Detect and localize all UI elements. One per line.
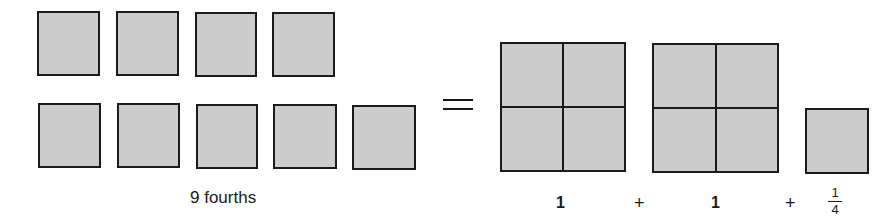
fourth-square bbox=[352, 105, 416, 170]
equals-sign bbox=[443, 99, 473, 111]
fourth-square bbox=[37, 11, 100, 76]
plus-sign-1: + bbox=[634, 193, 645, 214]
fourth-square bbox=[38, 103, 101, 168]
divider-horizontal bbox=[654, 107, 777, 109]
plus-sign-2: + bbox=[785, 193, 796, 214]
whole-label-1: 1 bbox=[556, 194, 565, 212]
fraction-numerator: 1 bbox=[826, 186, 844, 200]
fourth-square bbox=[116, 11, 179, 76]
fourth-square bbox=[195, 12, 257, 77]
divider-horizontal bbox=[502, 106, 624, 108]
fraction-one-fourth: 1 4 bbox=[826, 186, 844, 217]
fourth-square bbox=[117, 103, 180, 168]
fourth-square-remainder bbox=[805, 108, 869, 174]
left-caption: 9 fourths bbox=[190, 188, 256, 208]
fourth-square bbox=[273, 104, 337, 169]
whole-label-2: 1 bbox=[711, 194, 720, 212]
whole-square-2 bbox=[652, 43, 779, 173]
fourth-square bbox=[272, 12, 335, 77]
fourth-square bbox=[196, 104, 258, 169]
whole-square-1 bbox=[500, 42, 626, 172]
fraction-denominator: 4 bbox=[826, 203, 844, 217]
